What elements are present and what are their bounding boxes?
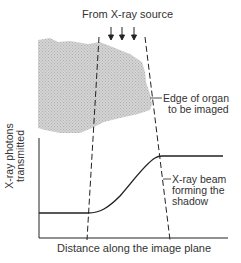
- beam-label-line3: shadow: [172, 196, 226, 207]
- y-axis-label-line2: transmitted: [15, 116, 26, 196]
- source-label: From X-ray source: [82, 9, 173, 20]
- beam-label: X-ray beam forming the shadow: [172, 174, 226, 207]
- x-axis-label: Distance along the image plane: [57, 243, 211, 254]
- diagram-canvas: [0, 0, 241, 263]
- arrow-icons: [109, 27, 137, 40]
- y-axis-label: X-ray photons transmitted: [4, 116, 26, 196]
- organ-shape: [38, 38, 152, 133]
- edge-label-line2: to be imaged: [163, 104, 229, 115]
- beam-line-right: [145, 37, 170, 240]
- edge-label: Edge of organ to be imaged: [163, 93, 229, 115]
